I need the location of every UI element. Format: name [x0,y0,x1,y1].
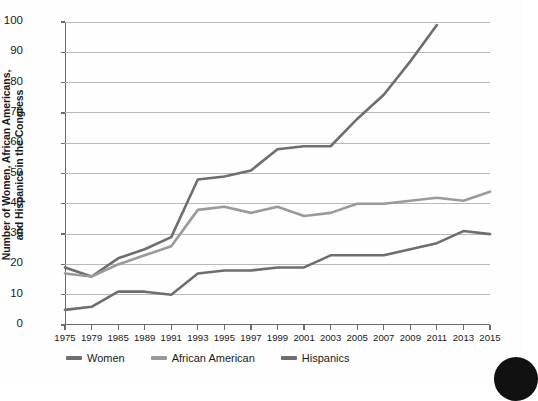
y-axis-tick-label: 100 [0,14,23,26]
y-axis-tick-label: 80 [0,75,23,87]
x-axis-tick [383,325,384,330]
x-axis-tick [64,325,65,330]
x-axis-tick [224,325,225,330]
legend-label: African American [172,352,255,364]
data-series-lines [65,22,490,325]
x-axis-tick [197,325,198,330]
series-line-women [65,25,437,276]
legend-label: Hispanics [302,352,350,364]
x-axis-tick [171,325,172,330]
chart-legend: WomenAfrican AmericanHispanics [66,352,350,364]
legend-swatch-icon [281,356,297,359]
series-line-african-american [65,192,490,277]
y-axis-tick-label: 0 [0,317,23,329]
x-axis-tick [463,325,464,330]
x-axis-tick [250,325,251,330]
legend-label: Women [87,352,125,364]
x-axis-tick [330,325,331,330]
x-axis-tick [118,325,119,330]
x-axis-tick [144,325,145,330]
legend-item-women[interactable]: Women [66,352,125,364]
x-axis-tick-label: 2015 [473,332,507,343]
x-axis-tick [91,325,92,330]
legend-item-african-american[interactable]: African American [151,352,255,364]
page-corner-artifact [494,357,538,401]
legend-item-hispanics[interactable]: Hispanics [281,352,350,364]
x-axis-tick [410,325,411,330]
legend-swatch-icon [66,356,82,359]
x-axis-tick [277,325,278,330]
x-axis-tick [489,325,490,330]
y-axis-tick-label: 20 [0,256,23,268]
series-line-hispanics [65,231,490,310]
x-axis-tick [303,325,304,330]
y-axis-tick-label: 60 [0,135,23,147]
legend-swatch-icon [151,356,167,359]
y-axis-tick-label: 70 [0,105,23,117]
y-axis-tick-label: 40 [0,196,23,208]
y-axis-tick-label: 30 [0,226,23,238]
y-axis-tick-label: 50 [0,166,23,178]
x-axis-tick [436,325,437,330]
plot-area: 0102030405060708090100 19751979198519891… [65,22,490,325]
y-axis-tick-label: 90 [0,44,23,56]
x-axis-tick [357,325,358,330]
y-axis-tick-label: 10 [0,287,23,299]
